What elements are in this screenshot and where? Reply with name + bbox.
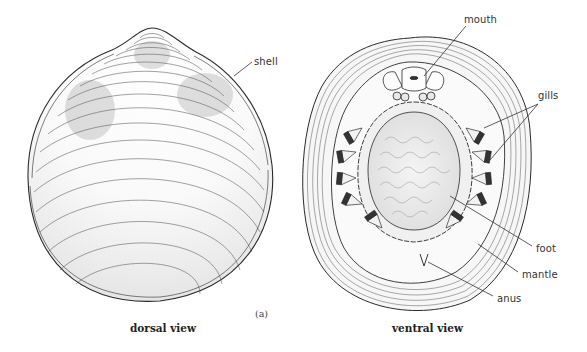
shell-leader-line: [234, 62, 252, 76]
dorsal-view-illustration: [28, 28, 273, 301]
foot-sole: [368, 112, 460, 230]
label-foot: foot: [536, 243, 556, 254]
label-anus: anus: [497, 293, 521, 304]
label-mantle: mantle: [522, 269, 558, 280]
caption-dorsal-view: dorsal view: [130, 322, 196, 334]
label-shell: shell: [254, 56, 278, 67]
label-mouth: mouth: [464, 14, 497, 25]
caption-ventral-view: ventral view: [392, 322, 463, 334]
panel-label: (a): [255, 308, 268, 319]
ventral-view-illustration: [303, 37, 532, 311]
label-gills: gills: [538, 90, 558, 101]
